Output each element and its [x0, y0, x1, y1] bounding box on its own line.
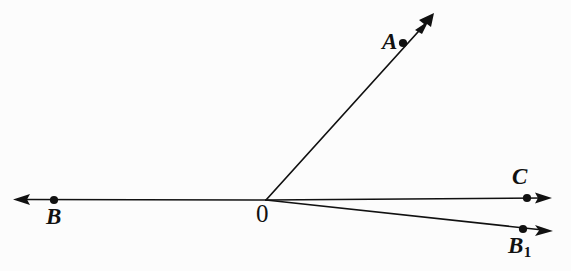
ray-diagram-figure: A B C B1 0	[0, 0, 571, 271]
point-b-dot	[50, 196, 58, 204]
point-b1-dot	[519, 225, 527, 233]
point-c-label: C	[512, 165, 527, 188]
point-b1-label-subscript: 1	[524, 244, 532, 260]
vertex-origin-label: 0	[256, 201, 269, 226]
point-a-label: A	[382, 30, 397, 53]
figure-background	[0, 0, 571, 271]
point-b-label: B	[46, 205, 61, 228]
ray-ob-line	[22, 200, 266, 201]
point-a-dot	[399, 39, 407, 47]
point-c-dot	[523, 194, 531, 202]
diagram-canvas	[0, 0, 571, 271]
point-b1-label: B1	[508, 234, 531, 260]
point-b1-label-base: B	[508, 233, 523, 258]
